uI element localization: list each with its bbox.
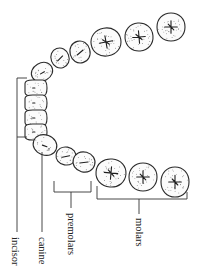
stipple-dot <box>168 171 169 172</box>
stipple-dot <box>164 22 165 23</box>
stipple-dot <box>153 179 154 180</box>
stipple-dot <box>36 123 37 124</box>
stipple-dot <box>173 35 174 36</box>
premolars-label: premolars <box>66 213 77 255</box>
tooth-premolar <box>67 39 92 65</box>
stipple-dot <box>148 166 149 167</box>
stipple-dot <box>175 36 176 37</box>
stipple-dot <box>167 187 168 188</box>
stipple-dot <box>132 173 133 174</box>
stipple-dot <box>166 38 167 39</box>
stipple-dot <box>28 92 29 93</box>
stipple-dot <box>27 84 28 85</box>
tooth-molar <box>89 26 123 59</box>
stipple-dot <box>27 129 28 130</box>
stipple-dot <box>33 138 34 139</box>
stipple-dot <box>175 23 176 24</box>
stipple-dot <box>183 186 184 187</box>
stipple-dot <box>31 116 32 117</box>
stipple-dot <box>133 171 134 172</box>
tooth-molar <box>161 167 189 197</box>
stipple-dot <box>167 30 168 31</box>
stipple-dot <box>27 120 28 121</box>
stipple-dot <box>42 100 43 101</box>
stipple-dot <box>44 130 45 131</box>
tooth-molar <box>157 13 185 41</box>
stipple-dot <box>165 176 166 177</box>
stipple-dot <box>40 106 41 107</box>
stipple-dot <box>138 188 139 189</box>
stipple-dot <box>30 87 31 88</box>
stipple-dot <box>178 193 179 194</box>
stipple-dot <box>41 92 42 93</box>
stipple-dot <box>181 170 182 171</box>
stipple-dot <box>40 89 41 90</box>
stipple-dot <box>168 31 169 32</box>
stipple-dot <box>34 108 35 109</box>
stipple-dot <box>41 126 42 127</box>
stipple-dot <box>137 185 138 186</box>
stipple-dot <box>180 184 181 185</box>
stipple-dot <box>29 107 30 108</box>
stipple-dot <box>170 190 171 191</box>
stipple-dot <box>174 21 175 22</box>
stipple-dot <box>146 182 147 183</box>
stipple-dot <box>137 181 138 182</box>
stipple-dot <box>41 107 42 108</box>
tooth-molar <box>129 163 157 191</box>
stipple-dot <box>168 173 169 174</box>
stipple-dot <box>172 37 173 38</box>
stipple-dot <box>173 171 174 172</box>
stipple-dot <box>172 169 173 170</box>
stipple-dot <box>158 29 159 30</box>
stipple-dot <box>41 132 42 133</box>
stipple-dot <box>179 24 180 25</box>
stipple-dot <box>162 26 163 27</box>
stipple-dot <box>33 106 34 107</box>
stipple-dot <box>37 134 38 135</box>
incisor-label: incisor <box>10 237 21 266</box>
stipple-dot <box>175 191 176 192</box>
stipple-dot <box>176 30 177 31</box>
stipple-dot <box>163 32 164 33</box>
stipple-dot <box>40 115 41 116</box>
stipple-dot <box>178 21 179 22</box>
stipple-dot <box>171 187 172 188</box>
stipple-dot <box>36 96 37 97</box>
stipple-dot <box>40 127 41 128</box>
stipple-dot <box>28 134 29 135</box>
stipple-dot <box>145 169 146 170</box>
stipple-dot <box>35 92 36 93</box>
stipple-dot <box>162 29 163 30</box>
stipple-dot <box>132 176 133 177</box>
stipple-dot <box>165 30 166 31</box>
stipple-dot <box>43 101 44 102</box>
stipple-dot <box>165 189 166 190</box>
stipple-dot <box>187 180 188 181</box>
stipple-dot <box>140 183 141 184</box>
stipple-dot <box>178 20 179 21</box>
stipple-dot <box>180 30 181 31</box>
stipple-dot <box>29 101 30 102</box>
stipple-dot <box>29 102 30 103</box>
teeth-group <box>25 13 189 197</box>
molars-label: molars <box>134 218 145 247</box>
stipple-dot <box>182 176 183 177</box>
tooth-molar <box>95 158 127 189</box>
stipple-dot <box>42 132 43 133</box>
stipple-dot <box>41 119 42 120</box>
stipple-dot <box>36 121 37 122</box>
stipple-dot <box>31 118 32 119</box>
stipple-dot <box>183 175 184 176</box>
stipple-dot <box>31 128 32 129</box>
premolars-bracket <box>54 181 91 208</box>
stipple-dot <box>32 130 33 131</box>
stipple-dot <box>146 167 147 168</box>
stipple-dot <box>38 83 39 84</box>
dental-arch-diagram: incisor canine premolars molars <box>0 0 204 277</box>
tooth-incisor <box>25 95 47 111</box>
stipple-dot <box>38 97 39 98</box>
canine-label: canine <box>37 237 48 265</box>
stipple-dot <box>148 167 149 168</box>
stipple-dot <box>138 181 139 182</box>
